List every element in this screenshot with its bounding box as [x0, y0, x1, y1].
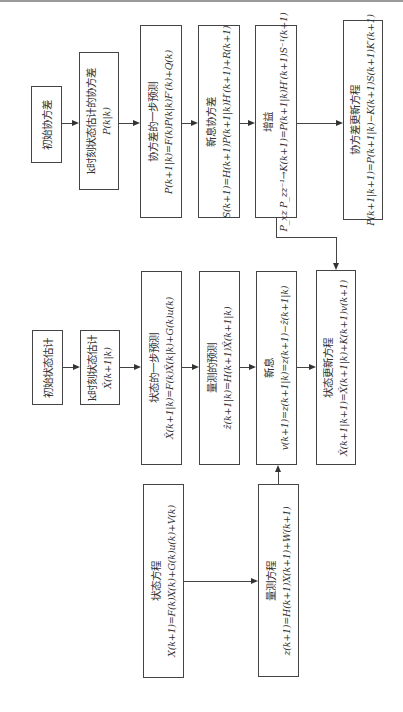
measurement-prediction-title: 量测的预测	[205, 307, 220, 430]
innovation-formula: v(k+1)=z(k+1|k)=z(k+1)−ẑ(k+1|k)	[277, 286, 292, 451]
k-state-box: k时刻状态估计 X̂(k+1|k)	[80, 330, 120, 405]
innovation-covariance-box: 新息协方差 S(k+1)=H(k+1)P(k+1|k)H′(k+1)+R(k+1…	[198, 25, 240, 218]
state-prediction-title: 状态的一步预测	[147, 297, 162, 439]
state-update-formula: X̂(k+1|k+1)=X̂(k+1|k)+K(k+1)v(k+1)	[336, 279, 351, 455]
k-covariance-box: k时刻状态估计的协方差 P(k|k)	[79, 52, 119, 190]
measurement-equation-title: 量测方程	[264, 506, 279, 655]
innovation-covariance-formula: S(k+1)=H(k+1)P(k+1|k)H′(k+1)+R(k+1)	[219, 25, 234, 218]
initial-covariance-box: 初始协方差	[31, 86, 62, 163]
covariance-update-box: 协方差更新方程 P(k+1|k+1)=P(k+1|k)−K(k+1)S(k+1)…	[343, 20, 383, 220]
arrow-up-icon	[275, 465, 281, 472]
innovation-covariance-title: 新息协方差	[204, 25, 219, 218]
covariance-update-title: 协方差更新方程	[348, 14, 363, 226]
arrow-right-icon	[72, 120, 79, 126]
gain-formula: P_xz P_zz⁻¹→K(k+1)=P(k+1|k)H′(k+1)S⁻¹(k+…	[276, 12, 291, 231]
gain-to-state-update-connector	[276, 218, 277, 237]
arrow-right-icon	[73, 364, 80, 370]
initial-state-title: 初始状态估计	[40, 338, 55, 398]
arrow-right-icon	[134, 364, 141, 370]
arrow-right-icon	[249, 364, 256, 370]
covariance-prediction-box: 协方差的一步预测 P(k+1|k)=F(k)P(k|k)F′(k)+Q(k)	[140, 25, 182, 218]
measurement-equation-box: 量测方程 z(k+1)=H(k+1)X(k+1)+W(k+1)	[258, 484, 299, 677]
connector	[297, 123, 337, 124]
state-equation-title: 状态方程	[149, 505, 164, 657]
arrow-right-icon	[336, 120, 343, 126]
gain-title: 增益	[261, 12, 276, 231]
state-update-title: 状态更新方程	[321, 279, 336, 455]
covariance-prediction-title: 协方差的一步预测	[146, 50, 161, 194]
covariance-prediction-formula: P(k+1|k)=F(k)P(k|k)F′(k)+Q(k)	[161, 50, 176, 194]
innovation-box: 新息 v(k+1)=z(k+1|k)=z(k+1)−ẑ(k+1|k)	[256, 271, 297, 465]
arrow-right-icon	[248, 120, 255, 126]
measurement-prediction-box: 量测的预测 ẑ(k+1|k)=H(k+1)X̂(k+1|k)	[199, 271, 240, 465]
k-covariance-title: k时刻状态估计的协方差	[84, 68, 99, 174]
connector	[184, 581, 251, 582]
state-equation-box: 状态方程 X(k+1)=F(k)X(k)+G(k)u(k)+V(k)	[143, 484, 184, 678]
measurement-equation-formula: z(k+1)=H(k+1)X(k+1)+W(k+1)	[279, 506, 294, 655]
initial-state-box: 初始状态估计	[32, 330, 63, 405]
state-prediction-box: 状态的一步预测 X̂(k+1|k)=F(k)X̂(k|k)+G(k)u(k)	[141, 271, 182, 465]
arrow-right-icon	[133, 120, 140, 126]
gain-to-state-update-connector	[336, 237, 337, 264]
innovation-title: 新息	[262, 286, 277, 451]
gain-box: 增益 P_xz P_zz⁻¹→K(k+1)=P(k+1|k)H′(k+1)S⁻¹…	[255, 25, 297, 218]
state-update-box: 状态更新方程 X̂(k+1|k+1)=X̂(k+1|k)+K(k+1)v(k+1…	[316, 270, 356, 465]
k-state-title: k时刻状态估计	[85, 334, 100, 400]
top-border-line	[0, 0, 403, 2]
measurement-prediction-formula: ẑ(k+1|k)=H(k+1)X̂(k+1|k)	[220, 307, 235, 430]
arrow-right-icon	[191, 120, 198, 126]
measurement-to-innovation-connector	[278, 472, 279, 484]
arrow-down-icon	[333, 263, 339, 270]
arrow-right-icon	[192, 364, 199, 370]
state-equation-formula: X(k+1)=F(k)X(k)+G(k)u(k)+V(k)	[164, 505, 179, 657]
connector	[120, 367, 135, 368]
gain-to-state-update-connector	[276, 237, 336, 238]
k-state-formula: X̂(k+1|k)	[100, 334, 115, 400]
arrow-right-icon	[309, 364, 316, 370]
k-covariance-formula: P(k|k)	[99, 68, 114, 174]
state-prediction-formula: X̂(k+1|k)=F(k)X̂(k|k)+G(k)u(k)	[162, 297, 177, 439]
connector	[119, 123, 134, 124]
arrow-right-icon	[251, 578, 258, 584]
covariance-update-formula: P(k+1|k+1)=P(k+1|k)−K(k+1)S(k+1)K′(k+1)	[363, 14, 378, 226]
initial-covariance-title: 初始协方差	[39, 100, 54, 150]
